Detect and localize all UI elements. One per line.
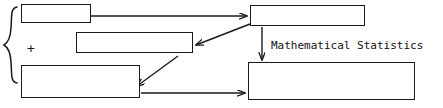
node-decision[interactable] [76,32,193,53]
group-brace [2,6,20,84]
node-data[interactable] [21,4,91,23]
node-formulae[interactable] [250,5,365,26]
node-statistical-space[interactable] [248,62,415,100]
node-information[interactable] [21,65,140,98]
edge-decision-to-information [137,56,178,86]
edge-formulae-to-decision [196,24,250,45]
diagram-canvas: + Data (1) Decision (3) Information (2) … [0,0,443,108]
